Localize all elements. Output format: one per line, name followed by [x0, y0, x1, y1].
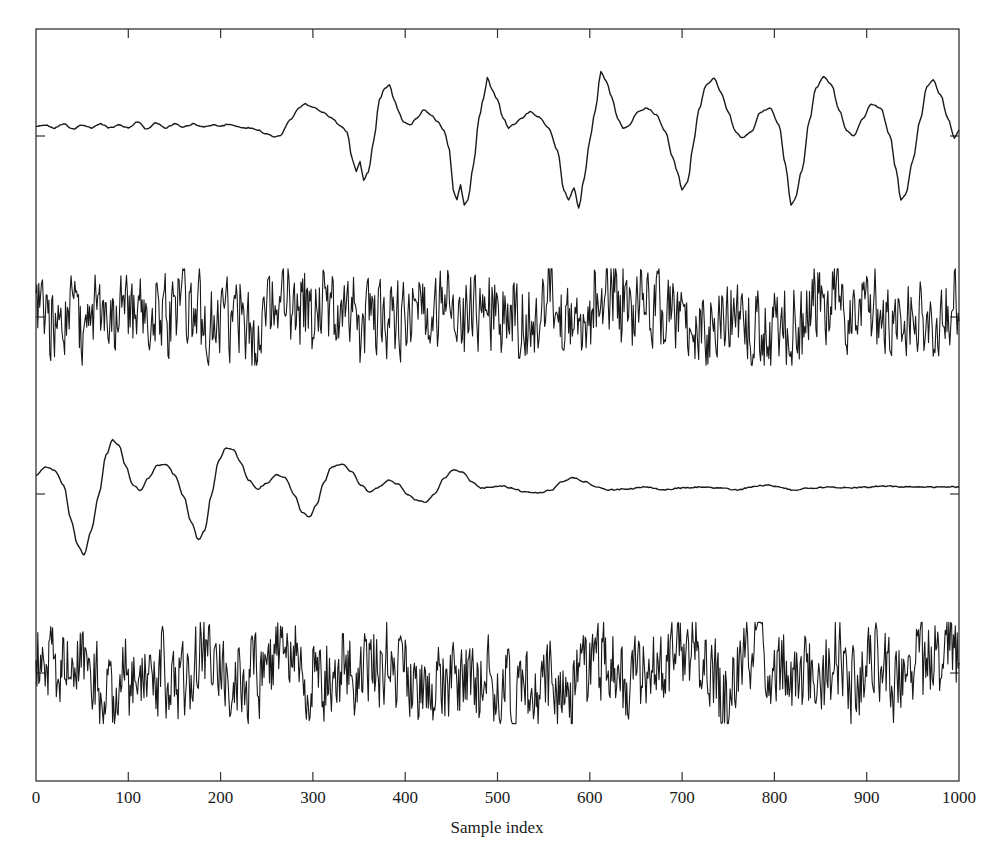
series-trace-1 — [36, 72, 959, 209]
x-tick-label: 700 — [669, 788, 695, 808]
x-tick-label: 600 — [577, 788, 603, 808]
series-trace-4 — [36, 622, 959, 723]
series-trace-3 — [36, 440, 959, 555]
x-tick-label: 100 — [116, 788, 142, 808]
x-tick-label: 500 — [485, 788, 511, 808]
x-tick-label: 0 — [32, 788, 41, 808]
x-axis-label: Sample index — [450, 818, 543, 838]
signal-chart — [0, 0, 1006, 867]
x-tick-label: 1000 — [942, 788, 976, 808]
x-tick-label: 300 — [300, 788, 326, 808]
plot-frame — [36, 29, 959, 781]
x-tick-label: 200 — [208, 788, 234, 808]
series-layer — [36, 72, 959, 724]
plot-border — [36, 29, 959, 781]
x-tick-label: 900 — [854, 788, 880, 808]
x-tick-label: 800 — [762, 788, 788, 808]
series-trace-2 — [36, 269, 959, 366]
x-tick-label: 400 — [392, 788, 418, 808]
